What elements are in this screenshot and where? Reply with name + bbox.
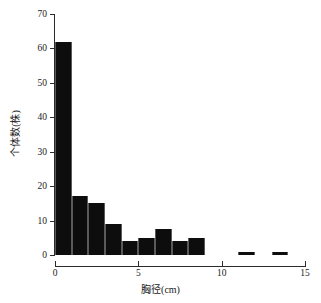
y-axis-tick (50, 221, 54, 222)
histogram-bar (122, 241, 139, 255)
y-axis-tick-label: 0 (42, 250, 47, 260)
x-axis-tick-label: 5 (136, 268, 141, 279)
x-axis-line (55, 266, 306, 267)
y-axis-tick-label: 50 (38, 78, 48, 88)
y-axis-tick (50, 14, 54, 15)
y-axis-tick (50, 255, 54, 256)
histogram-bar (55, 42, 72, 255)
y-axis-tick (50, 152, 54, 153)
histogram-bar (88, 203, 105, 255)
histogram-bar (138, 238, 155, 255)
plot-area (55, 14, 305, 255)
y-axis-tick-label: 70 (38, 9, 48, 19)
x-axis-tick-label: 15 (300, 268, 310, 279)
y-axis-title: 个体数(株) (7, 74, 22, 194)
x-axis-tick-label: 10 (217, 268, 227, 279)
histogram-bar (238, 252, 255, 255)
x-axis-tick (55, 261, 56, 266)
y-axis-tick (50, 117, 54, 118)
histogram-bar (272, 252, 289, 255)
x-axis-title: 胸径(cm) (0, 281, 321, 296)
y-axis-tick (50, 83, 54, 84)
x-axis-title-text: 胸径(cm) (141, 284, 180, 295)
y-axis-tick-label: 20 (38, 181, 48, 191)
histogram-bar (188, 238, 205, 255)
y-axis-tick (50, 48, 54, 49)
x-axis-tick (305, 261, 306, 266)
histogram-bar (105, 224, 122, 255)
y-axis-tick-label: 10 (38, 216, 48, 226)
y-axis-tick (50, 186, 54, 187)
y-axis-tick-label: 40 (38, 112, 48, 122)
x-axis-tick-label: 0 (53, 268, 58, 279)
x-axis-tick (138, 261, 139, 266)
histogram-bar (72, 196, 89, 255)
histogram-bar (172, 241, 189, 255)
x-axis-tick (222, 261, 223, 266)
y-axis-tick-label: 60 (38, 43, 48, 53)
histogram-bar (155, 229, 172, 255)
y-axis-title-text: 个体数(株) (10, 110, 21, 157)
histogram-figure: 010203040506070 051015 胸径(cm) 个体数(株) (0, 0, 321, 303)
y-axis-tick-label: 30 (38, 147, 48, 157)
